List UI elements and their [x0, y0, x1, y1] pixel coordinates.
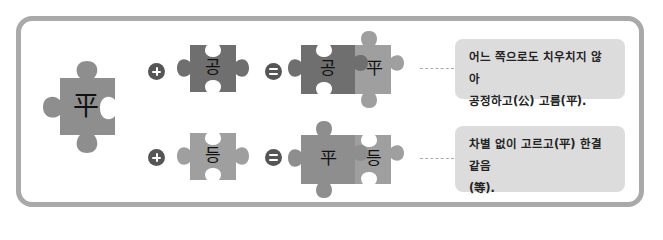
row2-note: 차별 없이 고르고(平) 한결같음 (等).	[455, 126, 625, 192]
row1-note-line2: 공정하고(公) 고름(平).	[469, 90, 611, 112]
row1-note-line1: 어느 쪽으로도 치우치지 않아	[469, 46, 611, 90]
row2-result-piece: 平 등	[288, 115, 428, 205]
row1-connector	[420, 68, 454, 69]
row1-left-piece: 공	[177, 42, 257, 98]
row2-connector	[420, 158, 454, 159]
row2-result-char-2: 등	[356, 147, 392, 169]
main-piece-char: 平	[60, 91, 112, 121]
row2-result-char-1: 平	[302, 147, 354, 169]
plus-icon	[148, 149, 165, 166]
row1-result-char-2: 平	[356, 57, 392, 79]
row1-result-char-1: 공	[302, 57, 354, 79]
equals-icon	[265, 149, 282, 166]
row2-left-char: 등	[190, 144, 236, 166]
row1-result-piece: 공 平	[288, 28, 428, 112]
main-puzzle-piece: 平	[40, 58, 140, 168]
row1-note: 어느 쪽으로도 치우치지 않아 공정하고(公) 고름(平).	[455, 39, 625, 99]
row2-note-line2: (等).	[469, 177, 611, 199]
row2-note-line1: 차별 없이 고르고(平) 한결같음	[469, 133, 611, 177]
plus-icon	[148, 63, 165, 80]
row1-left-char: 공	[190, 56, 236, 78]
equals-icon	[265, 63, 282, 80]
row2-left-piece: 등	[177, 130, 257, 186]
